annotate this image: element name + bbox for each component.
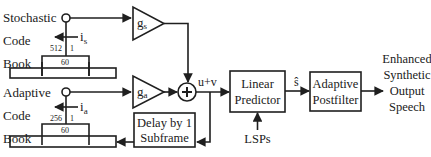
- adaptive-range-high: 256: [50, 114, 62, 123]
- stochastic-label-line1: Stochastic: [3, 10, 57, 25]
- adaptive-range-low: 1: [70, 114, 74, 123]
- linear-predictor-block: Linear Predictor: [230, 71, 285, 112]
- output-label-line2: Synthetic: [383, 68, 431, 82]
- adder: [178, 83, 196, 101]
- output-label: Enhanced Synthetic Output Speech: [382, 52, 431, 114]
- output-label-line4: Speech: [389, 100, 426, 114]
- gain-s-to-adder-line: [164, 24, 188, 83]
- stochastic-index-label: is: [80, 29, 88, 46]
- adaptive-window-size: 60: [61, 126, 69, 135]
- gain-stochastic: gs: [133, 7, 164, 40]
- output-label-line1: Enhanced: [382, 52, 431, 66]
- s-hat-label: ŝ: [294, 75, 299, 89]
- adaptive-switch-node: [62, 88, 70, 96]
- delay-block: Delay by 1 Subframe: [134, 113, 195, 147]
- adaptive-label-line2: Code: [3, 108, 31, 123]
- adaptive-buffer: [10, 136, 116, 147]
- output-label-line3: Output: [390, 84, 425, 98]
- delay-label-line1: Delay by 1: [137, 116, 192, 130]
- lsp-label: LSPs: [244, 132, 271, 146]
- stochastic-label-line2: Code: [3, 33, 31, 48]
- delay-label-line2: Subframe: [140, 131, 189, 145]
- adaptive-label-line1: Adaptive: [3, 85, 51, 100]
- stochastic-buffer: [10, 68, 116, 78]
- stochastic-range-high: 512: [50, 44, 62, 53]
- linear-predictor-label-line1: Linear: [241, 77, 274, 91]
- linear-predictor-label-line2: Predictor: [235, 93, 282, 107]
- stochastic-range-low: 1: [70, 44, 74, 53]
- stochastic-switch-node: [62, 14, 70, 22]
- gain-adaptive: ga: [133, 76, 164, 108]
- adaptive-index-label: ia: [80, 99, 88, 116]
- stochastic-codebook: Stochastic Code Book is 512 1 60: [3, 10, 116, 78]
- postfilter-label-line1: Adaptive: [313, 77, 359, 91]
- celp-decoder-diagram: Stochastic Code Book is 512 1 60 gs Adap…: [0, 0, 431, 157]
- feedback-to-delay-line: [197, 92, 210, 142]
- stochastic-window-size: 60: [61, 58, 69, 67]
- adaptive-codebook: Adaptive Code Book ia 256 1 60: [3, 85, 116, 147]
- adder-output-label: u+v: [198, 75, 217, 89]
- postfilter-block: Adaptive Postfilter: [310, 72, 361, 111]
- postfilter-label-line2: Postfilter: [313, 93, 360, 107]
